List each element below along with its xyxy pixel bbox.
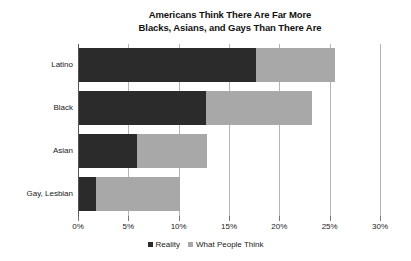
x-tick-label: 30% bbox=[360, 222, 400, 231]
legend-swatch-icon bbox=[188, 242, 193, 247]
gridline bbox=[380, 44, 381, 216]
x-tick-label: 15% bbox=[209, 222, 249, 231]
plot-area bbox=[78, 44, 380, 216]
chart-title-line-1: Americans Think There Are Far More bbox=[60, 9, 400, 22]
bar-reality bbox=[78, 91, 206, 125]
x-tick-label: 20% bbox=[259, 222, 299, 231]
bar-reality bbox=[78, 177, 96, 211]
bar-group bbox=[78, 48, 380, 91]
category-label: Black bbox=[1, 103, 73, 113]
x-tick-mark bbox=[279, 216, 280, 221]
value-axis-line bbox=[78, 44, 79, 216]
legend-item: What People Think bbox=[188, 240, 263, 249]
bar-reality bbox=[78, 134, 137, 168]
x-tick-mark bbox=[78, 216, 79, 221]
x-tick-mark bbox=[179, 216, 180, 221]
x-tick-mark bbox=[330, 216, 331, 221]
legend-item: Reality bbox=[148, 240, 180, 249]
category-label: Gay, Lesbian bbox=[1, 189, 73, 199]
bar-group bbox=[78, 91, 380, 134]
legend-label: Reality bbox=[156, 240, 180, 249]
x-axis: 0%5%10%15%20%25%30% bbox=[0, 216, 411, 236]
chart-legend: RealityWhat People Think bbox=[0, 240, 411, 249]
category-axis-labels: LatinoBlackAsianGay, Lesbian bbox=[0, 44, 73, 216]
x-tick-mark bbox=[128, 216, 129, 221]
x-tick-label: 10% bbox=[159, 222, 199, 231]
legend-swatch-icon bbox=[148, 242, 153, 247]
legend-label: What People Think bbox=[196, 240, 263, 249]
x-tick-label: 25% bbox=[310, 222, 350, 231]
bar-reality bbox=[78, 48, 256, 82]
x-tick-label: 5% bbox=[108, 222, 148, 231]
bar-group bbox=[78, 134, 380, 177]
x-tick-mark bbox=[380, 216, 381, 221]
x-tick-label: 0% bbox=[58, 222, 98, 231]
category-label: Asian bbox=[1, 146, 73, 156]
category-label: Latino bbox=[1, 60, 73, 70]
bar-chart: Americans Think There Are Far More Black… bbox=[0, 0, 411, 261]
x-tick-mark bbox=[229, 216, 230, 221]
chart-title: Americans Think There Are Far More Black… bbox=[60, 9, 400, 34]
chart-title-line-2: Blacks, Asians, and Gays Than There Are bbox=[60, 22, 400, 35]
bar-group bbox=[78, 177, 380, 220]
